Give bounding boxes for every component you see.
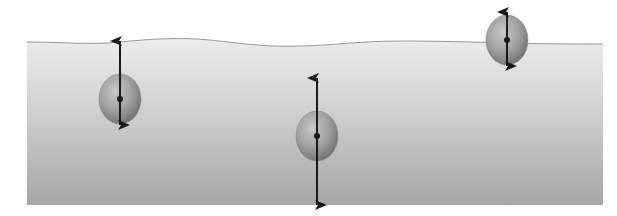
center-of-mass-dot — [314, 133, 320, 139]
object-floating — [486, 12, 528, 66]
buoyancy-diagram — [0, 0, 617, 216]
center-of-mass-dot — [504, 37, 510, 43]
center-of-mass-dot — [117, 96, 123, 102]
